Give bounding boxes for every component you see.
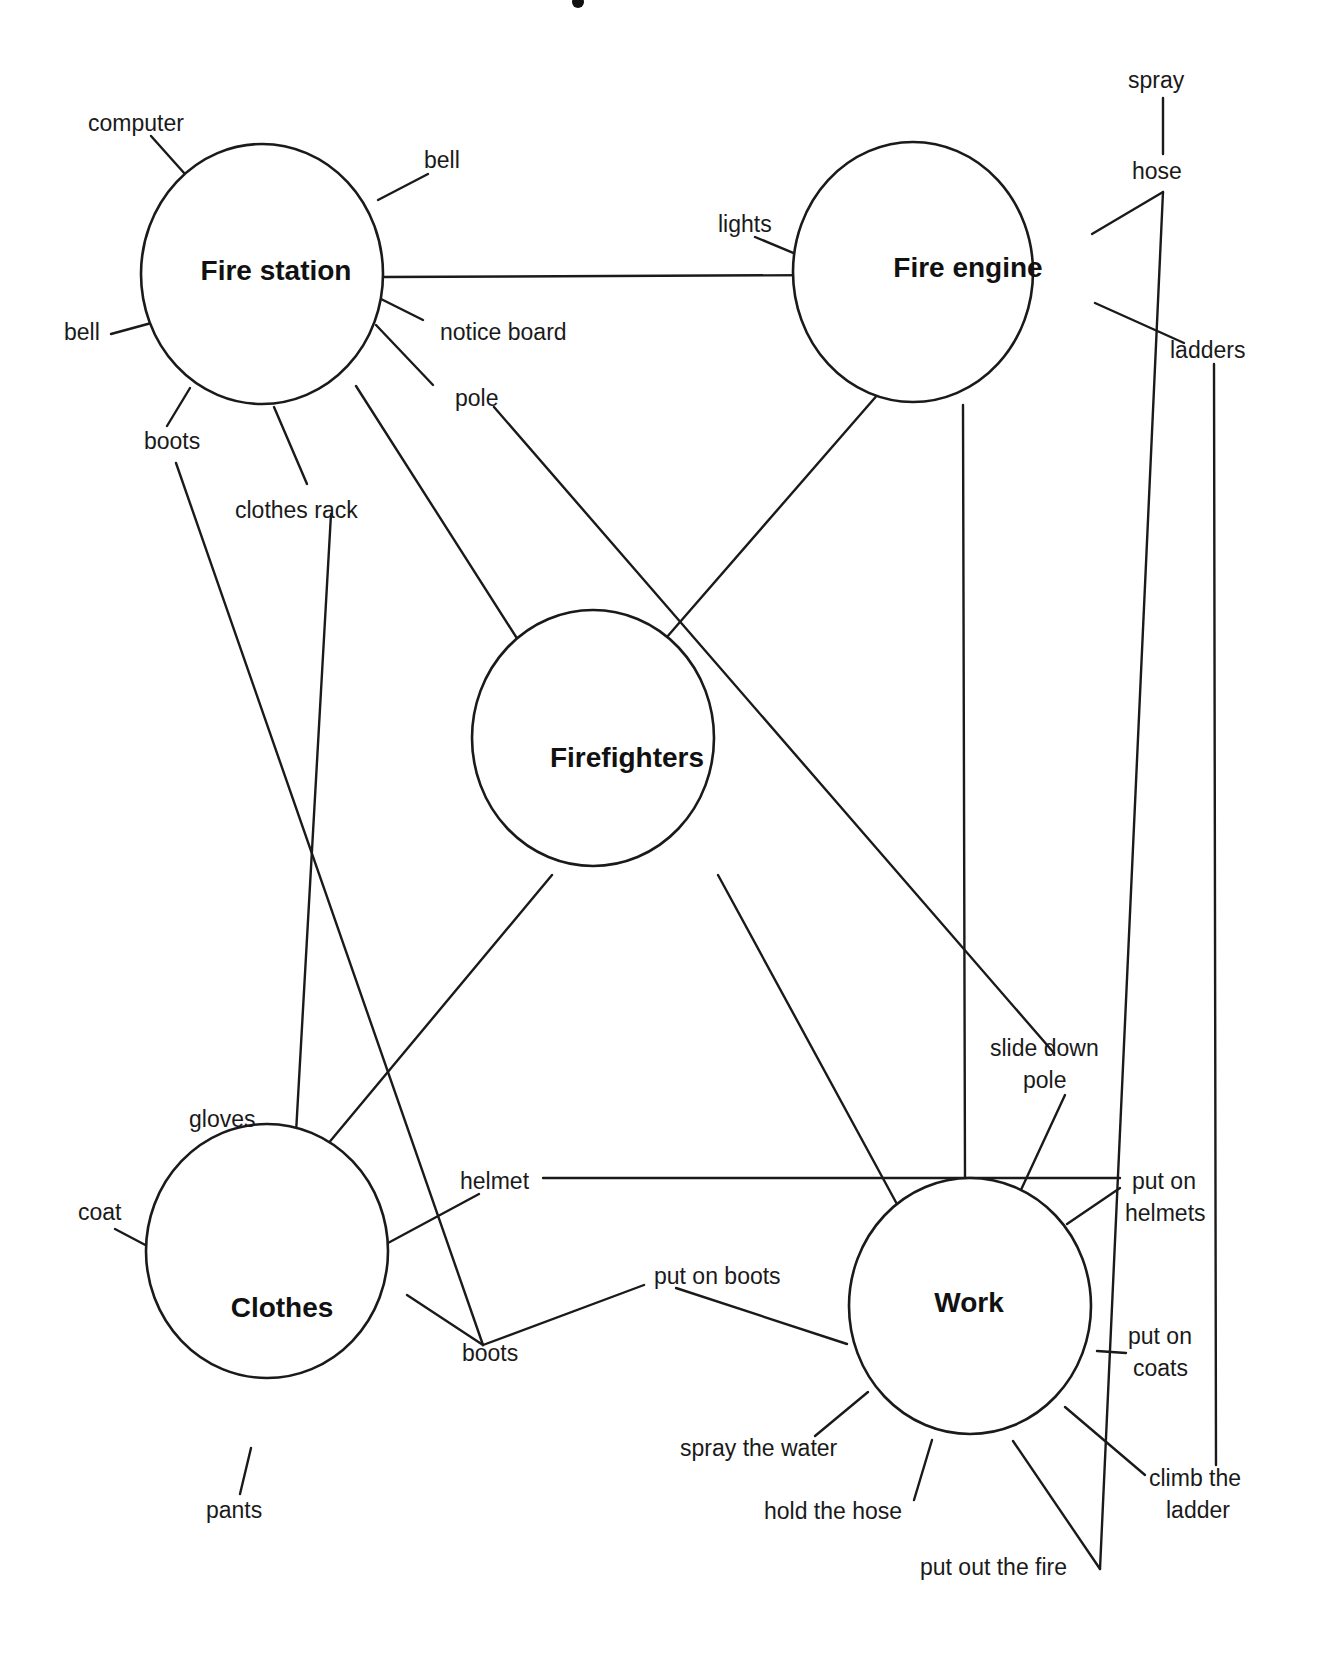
firefighters-circle xyxy=(472,610,714,866)
mind-map-canvas: Fire station Fire engine Firefighters Cl… xyxy=(0,0,1322,1659)
spoke-clothes-rack xyxy=(274,407,307,484)
edge-firefighters-work xyxy=(718,875,898,1206)
leaf-clothes-rack: clothes rack xyxy=(235,497,358,523)
edge-firestation-fireengine xyxy=(383,275,836,277)
leaf-slide-down-line2: pole xyxy=(1023,1067,1066,1093)
leaf-put-on-helmets-line2: helmets xyxy=(1125,1200,1206,1226)
leaf-put-out-fire: put out the fire xyxy=(920,1554,1067,1580)
leaf-climb-ladder-line2: ladder xyxy=(1166,1497,1230,1523)
leaf-climb-ladder-line1: climb the xyxy=(1149,1465,1241,1491)
fire-station-label: Fire station xyxy=(201,255,352,286)
edge-fireengine-work xyxy=(963,405,965,1180)
firefighters-label: Firefighters xyxy=(550,742,704,773)
spoke-boots xyxy=(167,388,190,426)
leaf-put-on-coats-line1: put on xyxy=(1128,1323,1192,1349)
spoke-pole xyxy=(376,325,433,385)
spoke-boots xyxy=(407,1295,483,1345)
spoke-spray-water xyxy=(815,1392,868,1436)
leaf-boots-top: boots xyxy=(144,428,200,454)
edge-boots-putonboots xyxy=(483,1285,644,1345)
spoke-put-on-helmets xyxy=(1067,1188,1120,1224)
edge-firestation-firefighters xyxy=(356,386,525,651)
node-fire-engine: Fire engine xyxy=(793,142,1043,402)
title-fragment xyxy=(572,0,584,8)
leaf-spray-water: spray the water xyxy=(680,1435,838,1461)
leaf-put-on-coats-line2: coats xyxy=(1133,1355,1188,1381)
spoke-bell-left xyxy=(111,322,155,334)
edge-firefighters-clothes xyxy=(292,875,552,1187)
node-fire-station: Fire station xyxy=(141,144,383,404)
leaf-pants: pants xyxy=(206,1497,262,1523)
node-firefighters: Firefighters xyxy=(472,610,714,866)
leaf-lights: lights xyxy=(718,211,772,237)
leaf-hose: hose xyxy=(1132,158,1182,184)
spoke-hose xyxy=(1092,192,1163,234)
clothes-circle xyxy=(146,1124,388,1378)
edge-clothesrack-clothes xyxy=(293,514,331,1186)
leaf-computer: computer xyxy=(88,110,184,136)
leaf-slide-down-line1: slide down xyxy=(990,1035,1099,1061)
spoke-put-on-coats xyxy=(1097,1351,1126,1353)
fire-engine-label: Fire engine xyxy=(893,252,1042,283)
leaf-boots-bottom: boots xyxy=(462,1340,518,1366)
leaf-coat: coat xyxy=(78,1199,122,1225)
leaf-bell-top: bell xyxy=(424,147,460,173)
node-clothes: Clothes xyxy=(146,1124,388,1378)
leaf-bell-left: bell xyxy=(64,319,100,345)
leaf-spray: spray xyxy=(1128,67,1185,93)
spoke-put-on-boots xyxy=(676,1288,847,1344)
leaf-pole: pole xyxy=(455,385,498,411)
leaf-hold-hose: hold the hose xyxy=(764,1498,902,1524)
spoke-notice-board xyxy=(381,299,423,320)
clothes-label: Clothes xyxy=(231,1292,334,1323)
edge-ladders-climbladder xyxy=(1214,364,1216,1465)
leaf-helmet: helmet xyxy=(460,1168,530,1194)
leaf-put-on-helmets-line1: put on xyxy=(1132,1168,1196,1194)
node-work: Work xyxy=(849,1178,1091,1434)
spoke-hold-hose xyxy=(914,1440,932,1500)
spoke-pants xyxy=(240,1448,251,1494)
leaf-ladders: ladders xyxy=(1170,337,1245,363)
work-label: Work xyxy=(934,1287,1004,1318)
leaf-gloves: gloves xyxy=(189,1106,255,1132)
edge-fireengine-firefighters xyxy=(660,385,886,645)
leaf-put-on-boots: put on boots xyxy=(654,1263,781,1289)
spoke-bell-top xyxy=(378,174,428,200)
leaf-notice-board: notice board xyxy=(440,319,567,345)
spoke-put-out-fire xyxy=(1013,1441,1100,1569)
